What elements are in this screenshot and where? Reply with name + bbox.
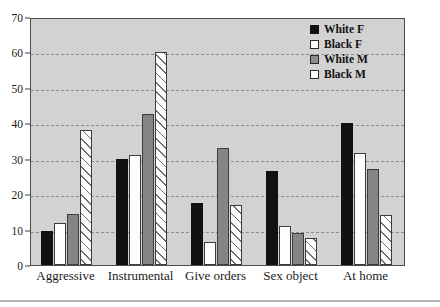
y-tick-label: 10 bbox=[12, 225, 24, 237]
bar bbox=[129, 155, 142, 265]
legend-label: Black M bbox=[324, 68, 366, 80]
bar bbox=[204, 242, 217, 265]
legend-item: Black M bbox=[310, 67, 368, 81]
bar-group bbox=[106, 19, 181, 265]
y-tick-label: 30 bbox=[12, 154, 24, 166]
bar bbox=[341, 123, 354, 265]
y-tick-label: 0 bbox=[17, 260, 23, 272]
y-axis: 010203040506070 bbox=[0, 18, 30, 266]
legend-swatch-icon bbox=[310, 25, 319, 34]
bar bbox=[41, 231, 54, 265]
x-tick-label: At home bbox=[343, 268, 388, 284]
legend-item: White M bbox=[310, 52, 368, 66]
bar bbox=[367, 169, 380, 265]
bar-group bbox=[181, 19, 256, 265]
bar bbox=[191, 203, 204, 265]
legend-label: White M bbox=[324, 53, 368, 65]
legend-item: White F bbox=[310, 22, 368, 36]
bar bbox=[354, 153, 367, 265]
x-axis: AggressiveInstrumentalGive ordersSex obj… bbox=[30, 268, 405, 290]
legend-swatch-icon bbox=[310, 55, 319, 64]
bar bbox=[217, 148, 230, 265]
bar bbox=[142, 114, 155, 265]
legend: White FBlack FWhite MBlack M bbox=[310, 22, 368, 81]
legend-label: White F bbox=[324, 23, 364, 35]
footer-rule bbox=[0, 300, 440, 302]
y-tick-label: 70 bbox=[12, 12, 24, 24]
bar bbox=[67, 214, 80, 265]
legend-swatch-icon bbox=[310, 40, 319, 49]
legend-label: Black F bbox=[324, 38, 362, 50]
bar bbox=[230, 205, 243, 265]
y-tick-label: 60 bbox=[12, 47, 24, 59]
y-tick-label: 50 bbox=[12, 83, 24, 95]
bar bbox=[116, 159, 129, 265]
bar-chart-figure: 010203040506070 AggressiveInstrumentalGi… bbox=[0, 0, 440, 307]
y-tick-label: 40 bbox=[12, 118, 24, 130]
x-tick-label: Sex object bbox=[263, 268, 318, 284]
legend-item: Black F bbox=[310, 37, 368, 51]
bar-group bbox=[31, 19, 106, 265]
bar bbox=[80, 130, 93, 265]
bar bbox=[54, 223, 67, 266]
x-tick-label: Give orders bbox=[185, 268, 246, 284]
y-tick-label: 20 bbox=[12, 189, 24, 201]
x-tick-label: Instrumental bbox=[108, 268, 174, 284]
bar bbox=[305, 238, 318, 265]
bar bbox=[380, 215, 393, 265]
bar bbox=[279, 226, 292, 265]
bar bbox=[292, 233, 305, 265]
legend-swatch-icon bbox=[310, 70, 319, 79]
x-tick-label: Aggressive bbox=[36, 268, 95, 284]
bar bbox=[155, 52, 168, 265]
bar bbox=[266, 171, 279, 265]
